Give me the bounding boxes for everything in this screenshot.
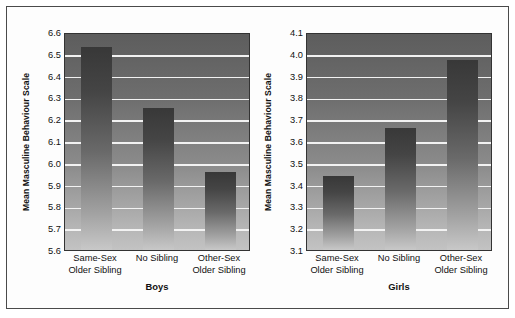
x-category-line: No Sibling <box>126 253 188 265</box>
y-tick-label: 3.8 <box>277 93 303 103</box>
y-tick-label: 3.7 <box>277 115 303 125</box>
figure-frame: Mean Masculine Behaviour Scale 5.65.75.8… <box>6 6 509 309</box>
panel-title-boys: Boys <box>64 281 250 292</box>
x-category-line: Older Sibling <box>306 265 368 277</box>
x-category-label: No Sibling <box>368 253 430 265</box>
x-category-line: Other-Sex <box>430 253 492 265</box>
x-category-line: Same-Sex <box>64 253 126 265</box>
y-tick-label: 3.4 <box>277 181 303 191</box>
y-axis-title-boys: Mean Masculine Behaviour Scale <box>21 27 35 257</box>
y-tick-label: 3.3 <box>277 202 303 212</box>
x-axis-categories-girls: Same-SexOlder SiblingNo SiblingOther-Sex… <box>306 253 492 283</box>
bar <box>385 128 416 250</box>
y-tick-label: 4.0 <box>277 50 303 60</box>
y-tick-label: 3.5 <box>277 159 303 169</box>
y-tick-label: 6.4 <box>35 72 61 82</box>
y-tick-label: 6.6 <box>35 28 61 38</box>
bar <box>81 47 112 250</box>
chart-panel-boys: Mean Masculine Behaviour Scale 5.65.75.8… <box>19 19 259 301</box>
y-tick-label: 5.8 <box>35 202 61 212</box>
bar <box>205 172 236 250</box>
bar <box>447 60 478 250</box>
y-tick-label: 4.1 <box>277 28 303 38</box>
x-category-label: Same-SexOlder Sibling <box>306 253 368 276</box>
y-tick-label: 3.1 <box>277 246 303 256</box>
x-axis-categories-boys: Same-SexOlder SiblingNo SiblingOther-Sex… <box>64 253 250 283</box>
y-axis-title-girls: Mean Masculine Behaviour Scale <box>263 27 277 257</box>
y-tick-label: 5.7 <box>35 224 61 234</box>
y-tick-label: 3.6 <box>277 137 303 147</box>
y-tick-label: 6.1 <box>35 137 61 147</box>
x-category-label: No Sibling <box>126 253 188 265</box>
x-category-line: Older Sibling <box>430 265 492 277</box>
x-category-line: Older Sibling <box>64 265 126 277</box>
y-tick-label: 6.2 <box>35 115 61 125</box>
y-tick-label: 5.9 <box>35 181 61 191</box>
x-category-line: Same-Sex <box>306 253 368 265</box>
y-axis-ticks-boys: 5.65.75.85.96.06.16.26.36.46.56.6 <box>35 33 61 251</box>
y-tick-label: 3.9 <box>277 72 303 82</box>
x-category-label: Other-SexOlder Sibling <box>430 253 492 276</box>
y-tick-label: 3.2 <box>277 224 303 234</box>
x-category-label: Other-SexOlder Sibling <box>188 253 250 276</box>
x-category-label: Same-SexOlder Sibling <box>64 253 126 276</box>
panel-title-girls: Girls <box>306 281 492 292</box>
plot-area-boys <box>64 33 250 251</box>
x-category-line: Other-Sex <box>188 253 250 265</box>
y-tick-label: 6.5 <box>35 50 61 60</box>
bar <box>143 108 174 250</box>
x-category-line: Older Sibling <box>188 265 250 277</box>
gridline <box>307 55 491 57</box>
y-tick-label: 6.0 <box>35 159 61 169</box>
y-tick-label: 6.3 <box>35 93 61 103</box>
figure-root: Mean Masculine Behaviour Scale 5.65.75.8… <box>0 0 515 318</box>
y-axis-ticks-girls: 3.13.23.33.43.53.63.73.83.94.04.1 <box>277 33 303 251</box>
plot-area-girls <box>306 33 492 251</box>
y-tick-label: 5.6 <box>35 246 61 256</box>
x-category-line: No Sibling <box>368 253 430 265</box>
bar <box>323 176 354 250</box>
chart-panel-girls: Mean Masculine Behaviour Scale 3.13.23.3… <box>261 19 501 301</box>
